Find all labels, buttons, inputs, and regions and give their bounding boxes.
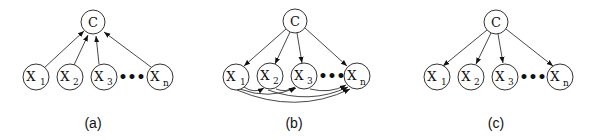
edge-x1-to-c bbox=[44, 31, 84, 68]
node-x3: X 3 bbox=[492, 64, 518, 90]
diagram-c: C X 1 X 2 X 3 ••• X n (c) bbox=[424, 10, 573, 131]
ellipsis: ••• bbox=[319, 68, 346, 84]
svg-text:X: X bbox=[495, 69, 505, 84]
svg-text:C: C bbox=[491, 15, 501, 30]
node-x1: X 1 bbox=[223, 64, 249, 90]
edge-x2-to-c bbox=[74, 35, 88, 65]
ellipsis: ••• bbox=[119, 69, 146, 85]
edge-c-to-x3 bbox=[498, 34, 503, 63]
svg-text:3: 3 bbox=[508, 77, 514, 87]
svg-text:2: 2 bbox=[273, 76, 279, 86]
svg-text:1: 1 bbox=[40, 77, 46, 87]
node-x2: X 2 bbox=[257, 63, 283, 89]
node-x1: X 1 bbox=[424, 64, 450, 90]
svg-text:1: 1 bbox=[441, 77, 447, 87]
diagram-b: C X 1 X 2 X 3 ••• X n (b) bbox=[223, 9, 370, 131]
svg-text:3: 3 bbox=[307, 76, 313, 86]
svg-text:X: X bbox=[226, 69, 236, 84]
node-xn: X n bbox=[547, 64, 573, 90]
caption-b: (b) bbox=[285, 115, 302, 131]
caption-c: (c) bbox=[488, 115, 504, 131]
node-c: C bbox=[283, 9, 307, 33]
node-x1: X 1 bbox=[23, 64, 49, 90]
svg-text:X: X bbox=[26, 69, 36, 84]
svg-text:X: X bbox=[260, 68, 270, 83]
svg-text:n: n bbox=[563, 78, 569, 88]
edge-x1-to-x2-arc bbox=[244, 87, 264, 91]
node-x2: X 2 bbox=[57, 64, 83, 90]
edge-c-to-xn bbox=[506, 29, 553, 66]
svg-text:X: X bbox=[461, 69, 471, 84]
svg-text:X: X bbox=[294, 68, 304, 83]
svg-text:X: X bbox=[550, 69, 560, 84]
svg-text:2: 2 bbox=[474, 77, 480, 87]
svg-text:C: C bbox=[290, 14, 300, 29]
svg-text:X: X bbox=[427, 69, 437, 84]
node-xn: X n bbox=[344, 63, 370, 89]
ellipsis: ••• bbox=[520, 69, 547, 85]
node-c: C bbox=[484, 10, 508, 34]
edge-c-to-x1 bbox=[443, 30, 487, 66]
svg-text:X: X bbox=[150, 69, 160, 84]
svg-text:3: 3 bbox=[107, 77, 113, 87]
svg-text:X: X bbox=[347, 68, 357, 83]
node-x3: X 3 bbox=[291, 63, 317, 89]
edge-c-to-xn bbox=[305, 28, 347, 66]
edge-xn-to-c bbox=[104, 32, 151, 67]
svg-text:X: X bbox=[60, 69, 70, 84]
node-x3: X 3 bbox=[91, 64, 117, 90]
diagram-a: C X 1 X 2 X 3 ••• X n (a) bbox=[23, 10, 173, 131]
svg-text:2: 2 bbox=[73, 77, 79, 87]
svg-text:n: n bbox=[163, 78, 169, 88]
svg-text:C: C bbox=[88, 15, 98, 30]
node-c: C bbox=[81, 10, 105, 34]
svg-text:X: X bbox=[94, 69, 104, 84]
svg-text:n: n bbox=[360, 77, 366, 87]
bayesian-network-figure: C X 1 X 2 X 3 ••• X n (a) bbox=[0, 0, 589, 140]
edge-c-to-x3 bbox=[297, 33, 302, 63]
node-x2: X 2 bbox=[458, 64, 484, 90]
caption-a: (a) bbox=[84, 115, 101, 131]
edge-c-to-x1 bbox=[244, 29, 286, 66]
svg-text:1: 1 bbox=[240, 77, 246, 87]
edge-x2-to-x3-arc bbox=[276, 87, 295, 91]
edge-x3-to-c bbox=[96, 36, 99, 64]
node-xn: X n bbox=[147, 64, 173, 90]
